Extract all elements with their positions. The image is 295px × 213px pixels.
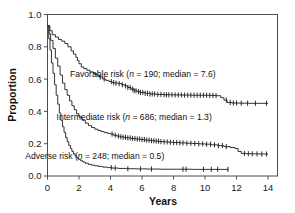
x-axis-tick-label: 10 — [200, 182, 211, 193]
survival-chart-figure: 0.00.20.40.60.81.0 02468101214 Proportio… — [0, 0, 295, 213]
x-axis-tick-label: 6 — [139, 182, 144, 193]
kaplan-meier-plot: 0.00.20.40.60.81.0 02468101214 Proportio… — [0, 0, 295, 213]
x-axis-tick-label: 14 — [263, 182, 274, 193]
x-axis-tick-label: 0 — [45, 182, 50, 193]
y-axis-tick-label: 0.8 — [28, 41, 41, 52]
curve-label-intermediate: Intermediate risk (n = 686; median = 1.3… — [57, 112, 212, 122]
x-axis-tick-label: 12 — [231, 182, 242, 193]
y-axis-tick-label: 0.6 — [28, 74, 41, 85]
y-axis-tick-label: 0.4 — [28, 106, 41, 117]
x-axis-tick-label: 4 — [108, 182, 113, 193]
x-axis-tick-label: 8 — [171, 182, 176, 193]
curve-label-favorable: Favorable risk (n = 190; median = 7.6) — [70, 69, 216, 79]
x-axis-tick-label: 2 — [76, 182, 81, 193]
curve-label-adverse: Adverse risk (n = 248; median = 0.5) — [25, 151, 164, 161]
y-axis-tick-label: 0.0 — [28, 170, 41, 181]
y-axis-tick-label: 1.0 — [28, 9, 41, 20]
y-axis-tick-label: 0.2 — [28, 138, 41, 149]
x-axis-title: Years — [149, 195, 177, 207]
y-axis-title: Proportion — [6, 68, 18, 122]
